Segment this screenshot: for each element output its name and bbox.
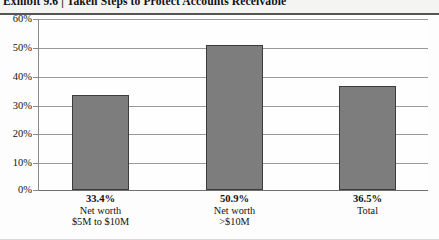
bar-value-label-0: 33.4%	[50, 193, 151, 205]
axis-baseline	[38, 190, 428, 191]
bar-category-line2-0: $5M to $10M	[50, 216, 151, 228]
bar-label-net-worth-5m-10m: 33.4% Net worth $5M to $10M	[50, 193, 151, 228]
bar-value-label-1: 50.9%	[184, 193, 285, 205]
y-tick-label-40: 40%	[2, 71, 32, 82]
y-tick-label-0: 0%	[2, 184, 32, 195]
y-axis-line	[38, 19, 39, 191]
bar-category-line1-1: Net worth	[184, 205, 285, 217]
bar-category-line1-2: Total	[317, 205, 418, 217]
bar-category-line2-1: >$10M	[184, 216, 285, 228]
bar-net-worth-over-10m	[206, 45, 263, 190]
bar-label-total: 36.5% Total	[317, 193, 418, 216]
y-tick-label-60: 60%	[2, 13, 32, 24]
y-tick-label-30: 30%	[2, 100, 32, 111]
page-title: Exhibit 9.6 | Taken Steps to Protect Acc…	[3, 0, 286, 8]
y-tick-label-20: 20%	[2, 128, 32, 139]
y-axis-labels: 60% 50% 40% 30% 20% 10% 0%	[0, 0, 32, 240]
y-tick-label-10: 10%	[2, 157, 32, 168]
bar-net-worth-5m-10m	[72, 95, 129, 190]
bar-value-label-2: 36.5%	[317, 193, 418, 205]
exhibit-figure: Exhibit 9.6 | Taken Steps to Protect Acc…	[0, 0, 439, 240]
gridline-60	[38, 19, 428, 20]
title-divider	[0, 13, 439, 15]
bar-total	[339, 86, 396, 190]
bar-category-line1-0: Net worth	[50, 205, 151, 217]
bar-label-net-worth-over-10m: 50.9% Net worth >$10M	[184, 193, 285, 228]
exhibit-title-band: Exhibit 9.6 | Taken Steps to Protect Acc…	[0, 0, 439, 13]
y-tick-label-50: 50%	[2, 42, 32, 53]
